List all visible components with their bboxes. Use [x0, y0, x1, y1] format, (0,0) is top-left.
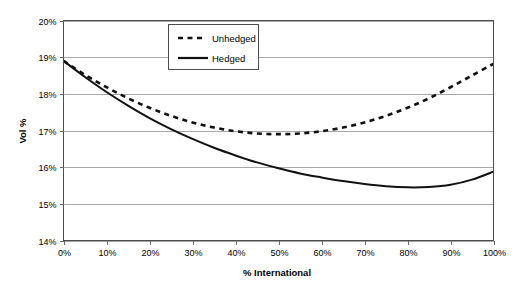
- y-tick-label: 19%: [38, 53, 56, 63]
- plot-frame: [64, 21, 494, 241]
- x-axis-title: % International: [243, 267, 311, 278]
- x-tick-label: 80%: [399, 248, 417, 258]
- x-tick-label: 60%: [313, 248, 331, 258]
- legend-label-unhedged: Unhedged: [212, 33, 256, 44]
- y-tick-label: 16%: [38, 163, 56, 173]
- y-tick-label: 14%: [38, 237, 56, 247]
- legend-label-hedged: Hedged: [212, 53, 245, 64]
- y-tick-label: 20%: [38, 17, 56, 27]
- x-tick-label: 40%: [227, 248, 245, 258]
- y-axis-title: Vol %: [17, 118, 28, 144]
- series-line-unhedged: [64, 61, 494, 134]
- x-tick-label: 50%: [270, 248, 288, 258]
- x-tick-label: 0%: [58, 248, 71, 258]
- x-tick-label: 100%: [483, 248, 506, 258]
- x-axis-tick-labels: 0%10%20%30%40%50%60%70%80%90%100%: [58, 248, 506, 258]
- x-tick-label: 30%: [184, 248, 202, 258]
- y-axis-tickmarks: [60, 22, 64, 242]
- x-tick-label: 70%: [356, 248, 374, 258]
- legend: Unhedged Hedged: [169, 25, 259, 70]
- gridlines: [64, 22, 494, 242]
- y-tick-label: 15%: [38, 200, 56, 210]
- series-lines: [64, 61, 494, 188]
- x-tick-label: 20%: [141, 248, 159, 258]
- x-tick-label: 10%: [98, 248, 116, 258]
- volatility-line-chart: 0%10%20%30%40%50%60%70%80%90%100% 14%15%…: [0, 0, 528, 291]
- y-tick-label: 18%: [38, 90, 56, 100]
- chart-screenshot: 0%10%20%30%40%50%60%70%80%90%100% 14%15%…: [0, 0, 528, 291]
- series-line-hedged: [64, 61, 494, 188]
- x-tick-label: 90%: [442, 248, 460, 258]
- y-tick-label: 17%: [38, 127, 56, 137]
- y-axis-tick-labels: 14%15%16%17%18%19%20%: [38, 17, 56, 247]
